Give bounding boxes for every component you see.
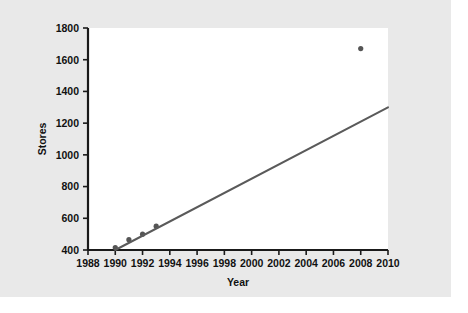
y-axis-title: Stores <box>36 123 48 156</box>
x-axis-tick-label: 1994 <box>158 257 182 269</box>
x-axis-tick-label: 2004 <box>295 257 319 269</box>
store-growth-chart: 4006008001000120014001600180019881990199… <box>0 0 468 313</box>
x-axis-tick-label: 1988 <box>76 257 100 269</box>
x-axis-tick-label: 2000 <box>240 257 264 269</box>
x-axis-tick-label: 1998 <box>213 257 237 269</box>
plot-area-background <box>88 28 388 250</box>
data-point <box>358 46 363 51</box>
y-axis-tick-label: 1400 <box>56 85 80 97</box>
x-axis-tick-label: 2002 <box>267 257 291 269</box>
x-axis-tick-label: 1990 <box>104 257 128 269</box>
x-axis-tick-label: 1992 <box>131 257 155 269</box>
x-axis-tick-label: 2010 <box>376 257 400 269</box>
x-axis-tick-label: 2008 <box>349 257 373 269</box>
y-axis-tick-label: 1600 <box>56 54 80 66</box>
x-axis-tick-label: 1996 <box>185 257 209 269</box>
y-axis-tick-label: 1800 <box>56 22 80 34</box>
y-axis-tick-label: 800 <box>61 180 79 192</box>
y-axis-tick-label: 1200 <box>56 117 80 129</box>
y-axis-tick-label: 400 <box>61 244 79 256</box>
y-axis-tick-label: 600 <box>61 212 79 224</box>
y-axis-tick-label: 1000 <box>56 149 80 161</box>
x-axis-title: Year <box>227 276 249 288</box>
x-axis-tick-label: 2006 <box>322 257 346 269</box>
chart-canvas: 4006008001000120014001600180019881990199… <box>0 0 468 313</box>
